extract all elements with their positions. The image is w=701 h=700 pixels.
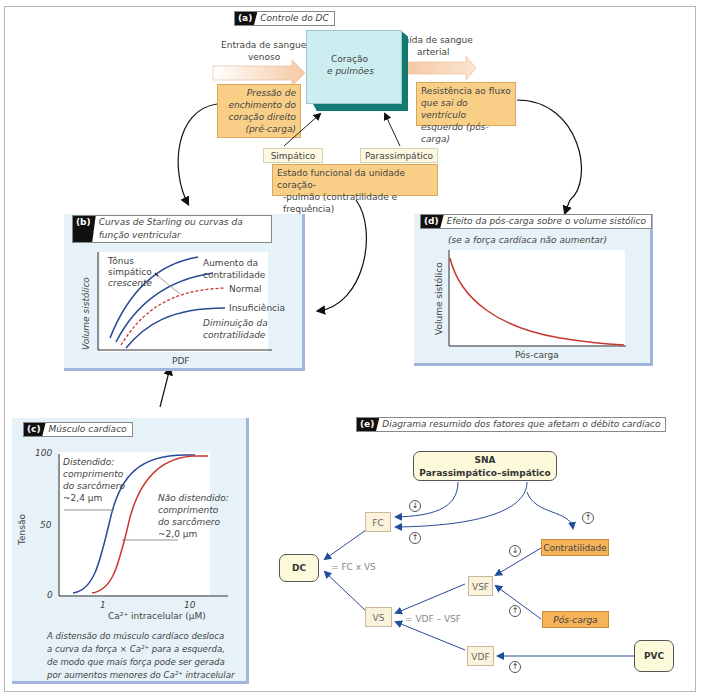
fc-node: FC [365, 512, 391, 532]
vs-equation: = VDF – VSF [405, 614, 461, 624]
increase-indicator-icon: ↑ [582, 512, 594, 524]
pvc-node: PVC [634, 640, 674, 672]
afterload-node: Pós-carga [542, 611, 609, 628]
sna-line2: Parassimpático–simpático [414, 467, 556, 480]
increase-indicator-icon: ↑ [509, 661, 521, 673]
summary-diagram-arrows [0, 0, 701, 700]
contractility-node: Contratilidade [541, 539, 609, 556]
dc-equation: = FC x VS [331, 562, 376, 572]
decrease-indicator-icon: ↓ [509, 545, 521, 557]
sna-node: SNA Parassimpático–simpático [413, 451, 557, 481]
decrease-indicator-icon: ↓ [409, 500, 421, 512]
vs-node: VS [365, 607, 392, 627]
vdf-node: VDF [467, 646, 494, 666]
increase-indicator-icon: ↑ [509, 605, 521, 617]
increase-indicator-icon: ↑ [409, 532, 421, 544]
dc-node: DC [279, 554, 319, 582]
sna-line1: SNA [414, 454, 556, 467]
vsf-node: VSF [468, 576, 493, 596]
